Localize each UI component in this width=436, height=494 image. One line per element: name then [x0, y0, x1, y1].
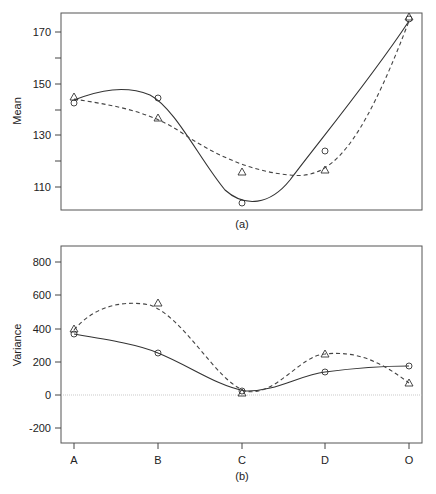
- xtick-label: O: [405, 454, 414, 466]
- panel-a-frame: [61, 13, 422, 210]
- xtick-label: A: [70, 454, 78, 466]
- panel-a-caption: (a): [235, 218, 248, 230]
- mean-solid-curve: [74, 21, 409, 201]
- ytick-label: 800: [33, 256, 51, 268]
- ytick-label: 400: [33, 323, 51, 335]
- xtick-label: D: [321, 454, 329, 466]
- xtick-label: B: [154, 454, 161, 466]
- panel-b: 800 600 400 200 0 -200 Variance A B C D …: [11, 246, 422, 482]
- xtick-label: C: [238, 454, 246, 466]
- panel-b-xticks: [74, 443, 409, 449]
- ytick-label: 170: [33, 26, 51, 38]
- y-axis-label-mean: Mean: [11, 97, 23, 125]
- panel-b-yticks: [55, 262, 61, 428]
- ytick-label: 110: [33, 181, 51, 193]
- mean-circle-markers: [71, 16, 412, 206]
- panel-a-yticks: [55, 32, 61, 187]
- ytick-label: 200: [33, 356, 51, 368]
- ytick-label: 150: [33, 78, 51, 90]
- variance-triangle-markers: [70, 299, 413, 396]
- variance-circle-markers: [71, 331, 412, 394]
- ytick-label: 0: [45, 389, 51, 401]
- y-axis-label-variance: Variance: [11, 324, 23, 367]
- panel-a: 170 150 130 110 Mean (a): [11, 13, 422, 230]
- ytick-label: 130: [33, 129, 51, 141]
- panel-b-caption: (b): [235, 470, 248, 482]
- ytick-label: -200: [29, 422, 51, 434]
- variance-dashed-curve: [74, 303, 409, 392]
- mean-triangle-markers: [70, 13, 413, 175]
- chart-figure: 170 150 130 110 Mean (a): [0, 0, 436, 494]
- mean-dashed-curve: [74, 21, 409, 176]
- panel-b-frame: [61, 246, 422, 443]
- variance-solid-curve: [74, 334, 409, 391]
- ytick-label: 600: [33, 289, 51, 301]
